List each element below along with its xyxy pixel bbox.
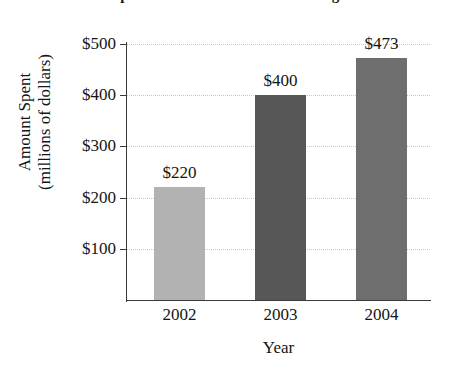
y-axis-tick — [120, 198, 127, 199]
bar — [356, 58, 407, 300]
x-axis-line — [126, 300, 431, 301]
bar-value-label: $220 — [135, 164, 225, 181]
x-axis-tick-label: 2003 — [236, 306, 326, 323]
x-axis-title: Year — [127, 338, 430, 358]
x-axis-tick-label: 2004 — [337, 306, 427, 323]
chart-title: Spent in the U.S. on Online Dating — [0, 0, 451, 4]
y-axis-tick — [120, 95, 127, 96]
y-axis-tick — [120, 249, 127, 250]
y-axis-tick-label: $300 — [54, 137, 116, 154]
y-axis-tick-label: $100 — [54, 240, 116, 257]
bar — [255, 95, 306, 300]
bar-value-label: $473 — [337, 35, 427, 52]
y-axis-tick-label: $400 — [54, 86, 116, 103]
x-axis-tick-label: 2002 — [135, 306, 225, 323]
bar — [154, 187, 205, 300]
y-axis-tick — [120, 44, 127, 45]
bar-value-label: $400 — [236, 72, 326, 89]
y-axis-tick — [120, 146, 127, 147]
y-axis-title-line-1: Amount Spent — [15, 12, 35, 232]
y-axis-tick-label: $500 — [54, 35, 116, 52]
y-axis-tick-label: $200 — [54, 189, 116, 206]
y-axis-title-line-2: (millions of dollars) — [35, 12, 55, 232]
bar-chart: Spent in the U.S. on Online Dating Amoun… — [0, 0, 451, 373]
y-axis-title: Amount Spent (millions of dollars) — [15, 12, 59, 232]
